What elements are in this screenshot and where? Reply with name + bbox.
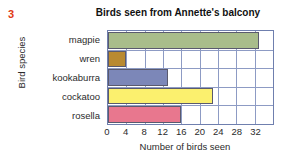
y-tick-label-wren: wren: [24, 49, 103, 68]
x-axis-title: Number of birds seen: [90, 141, 280, 152]
bar-row-rosella: [108, 105, 273, 124]
y-axis-tick-labels: magpiewrenkookaburracockatoorosella: [24, 30, 103, 125]
x-tick-label-0: 0: [104, 127, 109, 137]
bar-wren: [108, 51, 126, 68]
y-tick-label-rosella: rosella: [24, 106, 103, 125]
x-tick-label-12: 12: [157, 127, 168, 137]
x-tick-label-32: 32: [250, 127, 261, 137]
bar-row-kookaburra: [108, 68, 273, 87]
y-tick-label-cockatoo: cockatoo: [24, 87, 103, 106]
chart-title: Birds seen from Annette's balcony: [76, 7, 280, 18]
plot-area: [107, 30, 274, 125]
x-tick-label-8: 8: [141, 127, 146, 137]
x-tick-label-16: 16: [176, 127, 187, 137]
bar-magpie: [108, 32, 259, 49]
bar-row-wren: [108, 50, 273, 69]
bar-cockatoo: [108, 88, 213, 105]
x-axis-tick-labels: 048121620242832: [107, 127, 274, 139]
bar-row-cockatoo: [108, 87, 273, 106]
y-tick-label-magpie: magpie: [24, 30, 103, 49]
question-number: 3: [8, 8, 14, 20]
x-tick-label-4: 4: [123, 127, 128, 137]
chart-page: 3 Birds seen from Annette's balcony Bird…: [0, 0, 285, 156]
bar-series: [108, 31, 273, 124]
bar-rosella: [108, 106, 181, 123]
bar-kookaburra: [108, 69, 168, 86]
bar-row-magpie: [108, 31, 273, 50]
x-tick-label-28: 28: [232, 127, 243, 137]
x-tick-label-24: 24: [213, 127, 224, 137]
y-tick-label-kookaburra: kookaburra: [24, 68, 103, 87]
x-tick-label-20: 20: [194, 127, 205, 137]
